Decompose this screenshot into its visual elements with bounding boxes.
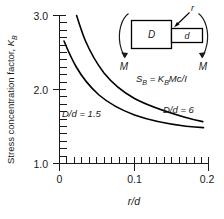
curve-label-dd-6: D/d = 6 [163, 104, 195, 115]
moment-arrow-right [199, 52, 206, 58]
x-axis-label: r/d [128, 195, 141, 207]
stress-concentration-chart: Stress concentration factor, KB [0, 0, 224, 219]
y-tick-label-2: 2.0 [33, 84, 48, 96]
y-axis-label-symbol-sub: B [11, 35, 18, 40]
y-tick-label-3: 3.0 [33, 10, 48, 22]
curve-label-dd-1-5: D/d = 1.5 [62, 108, 102, 119]
label-moment-left: M [120, 61, 129, 72]
y-tick-label-1: 1.0 [33, 158, 48, 170]
x-tick-label-0-1: 0.1 [127, 173, 142, 185]
label-moment-right: M [199, 61, 208, 72]
label-r: r [191, 3, 195, 13]
moment-arrow-left [121, 52, 128, 58]
formula-stress: SB = KBMc/I [136, 73, 187, 86]
y-axis-label: Stress concentration factor, KB [5, 35, 18, 164]
x-tick-label-0: 0 [57, 173, 63, 185]
inset-shaft-diagram: D d r M M SB = KBMc/I [119, 3, 207, 86]
formula-eq: = [147, 73, 158, 84]
label-D: D [148, 29, 155, 40]
x-tick-label-0-2: 0.2 [200, 173, 215, 185]
y-axis-label-text: Stress concentration factor, [5, 46, 16, 164]
moment-arc-left [119, 14, 128, 58]
chart-canvas: Stress concentration factor, KB [0, 0, 224, 219]
formula-rhs: Mc/I [169, 73, 187, 84]
